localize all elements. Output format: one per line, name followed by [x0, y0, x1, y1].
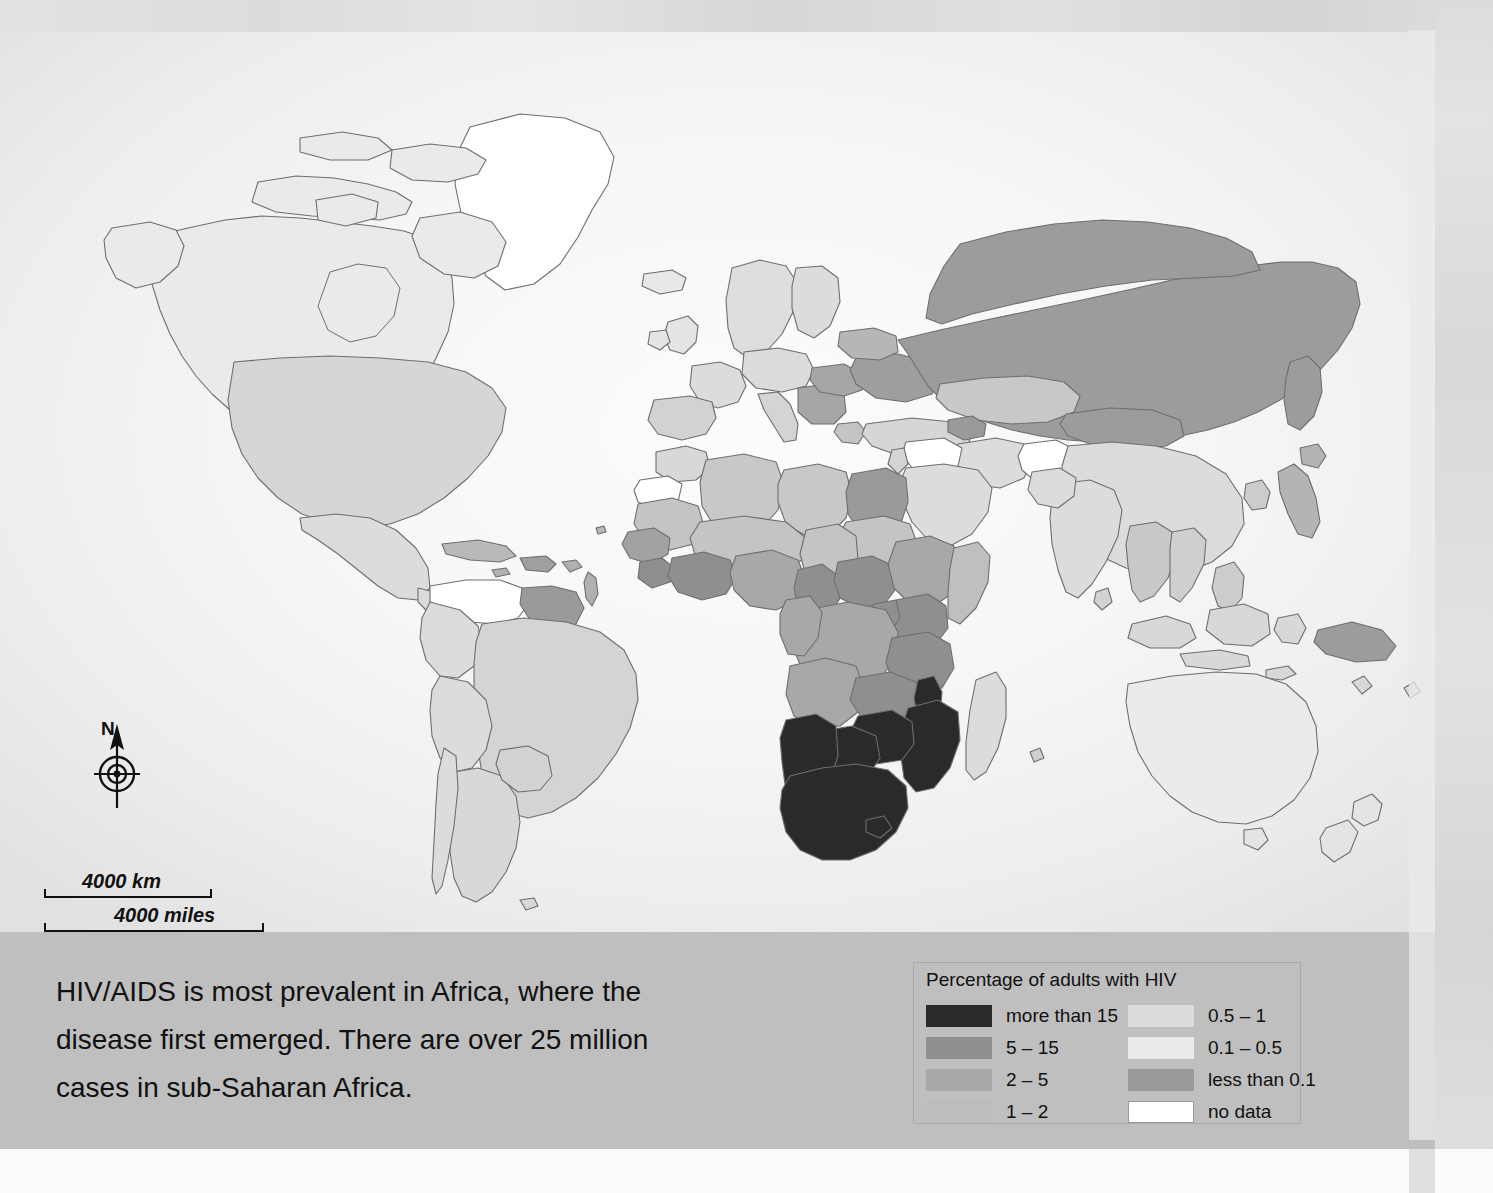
cape-verde — [596, 526, 606, 534]
legend-label-01-05: 0.1 – 0.5 — [1208, 1037, 1282, 1059]
legend-swatch-2-5 — [926, 1069, 992, 1091]
map-legend: Percentage of adults with HIV more than … — [913, 962, 1301, 1124]
scale-bar-km-label: 4000 km — [82, 870, 161, 893]
page-frame-top — [0, 0, 1493, 32]
legend-item-less-than-01[interactable]: less than 0.1 — [1128, 1065, 1316, 1095]
legend-label-2-5: 2 – 5 — [1006, 1069, 1048, 1091]
legend-item-05-1[interactable]: 0.5 – 1 — [1128, 1001, 1316, 1031]
legend-item-2-5[interactable]: 2 – 5 — [926, 1065, 1118, 1095]
caption-band: HIV/AIDS is most prevalent in Africa, wh… — [0, 932, 1435, 1149]
caption-line-1: HIV/AIDS is most prevalent in Africa, wh… — [56, 968, 736, 1016]
scale-bar-miles-label: 4000 miles — [114, 904, 215, 927]
page-frame-right-inner — [1409, 30, 1435, 1140]
legend-swatch-01-05 — [1128, 1037, 1194, 1059]
country-spain-portugal — [648, 396, 716, 440]
legend-item-no-data[interactable]: no data — [1128, 1097, 1316, 1127]
legend-column-left: more than 15 5 – 15 2 – 5 1 – 2 — [926, 1001, 1118, 1129]
legend-swatch-more-than-15 — [926, 1005, 992, 1027]
legend-item-more-than-15[interactable]: more than 15 — [926, 1001, 1118, 1031]
legend-label-no-data: no data — [1208, 1101, 1271, 1123]
legend-label-5-15: 5 – 15 — [1006, 1037, 1059, 1059]
page-frame-bottom-tab — [1409, 1149, 1435, 1193]
legend-swatch-less-than-01 — [1128, 1069, 1194, 1091]
legend-item-1-2[interactable]: 1 – 2 — [926, 1097, 1118, 1127]
legend-label-more-than-15: more than 15 — [1006, 1005, 1118, 1027]
scale-bar-km-tick-left — [44, 889, 46, 898]
page-root: N 4000 km 4000 miles HIV/AIDS — [0, 0, 1493, 1193]
world-map-svg — [0, 32, 1435, 932]
scale-bar-miles-tick-right — [262, 923, 264, 932]
legend-title: Percentage of adults with HIV — [926, 969, 1176, 991]
legend-label-05-1: 0.5 – 1 — [1208, 1005, 1266, 1027]
world-map[interactable]: N 4000 km 4000 miles — [0, 32, 1435, 932]
caption-text: HIV/AIDS is most prevalent in Africa, wh… — [56, 968, 736, 1112]
legend-swatch-5-15 — [926, 1037, 992, 1059]
scale-bar-km-tick-right — [210, 889, 212, 898]
legend-swatch-1-2 — [926, 1101, 992, 1123]
country-germany-poland — [742, 348, 814, 392]
page-frame-bottom — [0, 1149, 1493, 1193]
caption-line-2: disease first emerged. There are over 25… — [56, 1016, 736, 1064]
legend-label-1-2: 1 – 2 — [1006, 1101, 1048, 1123]
legend-swatch-05-1 — [1128, 1005, 1194, 1027]
scale-bar: 4000 km 4000 miles — [44, 870, 304, 932]
caption-line-3: cases in sub-Saharan Africa. — [56, 1064, 736, 1112]
scale-bar-km-rule — [44, 896, 212, 898]
legend-swatch-no-data — [1128, 1101, 1194, 1123]
legend-item-5-15[interactable]: 5 – 15 — [926, 1033, 1118, 1063]
legend-item-01-05[interactable]: 0.1 – 0.5 — [1128, 1033, 1316, 1063]
scale-bar-miles-tick-left — [44, 923, 46, 932]
compass-rose-icon — [82, 722, 152, 814]
legend-column-right: 0.5 – 1 0.1 – 0.5 less than 0.1 no data — [1128, 1001, 1316, 1129]
legend-label-less-than-01: less than 0.1 — [1208, 1069, 1316, 1091]
page-frame-right — [1435, 0, 1493, 1193]
